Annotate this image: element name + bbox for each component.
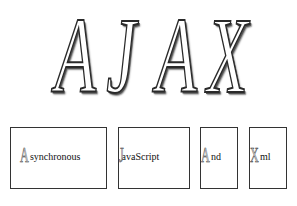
word-rest: nd <box>211 151 221 162</box>
initial-a: A <box>201 142 210 168</box>
ajax-title: A J A X <box>46 2 246 106</box>
title-letter-a2: A <box>156 6 186 106</box>
word-xml: Xml <box>250 142 270 168</box>
box-javascript: JavaScript <box>118 127 190 189</box>
box-xml: Xml <box>249 127 287 189</box>
word-rest: synchronous <box>30 151 81 162</box>
word-rest: avaScript <box>122 151 160 162</box>
title-letter-x: X <box>207 6 237 106</box>
box-asynchronous: Asynchronous <box>10 127 107 189</box>
box-and: And <box>200 127 238 189</box>
word-and: And <box>201 142 221 168</box>
title-letter-j: J <box>106 6 136 106</box>
word-asynchronous: Asynchronous <box>20 142 80 168</box>
initial-j: J <box>119 142 124 168</box>
word-rest: ml <box>260 151 271 162</box>
initial-x: X <box>250 142 259 168</box>
initial-a: A <box>20 142 29 168</box>
title-letter-a: A <box>55 6 85 106</box>
word-javascript: JavaScript <box>119 142 159 168</box>
